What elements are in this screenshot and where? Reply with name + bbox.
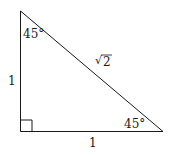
triangle-diagram [0,0,171,155]
left-side-label: 1 [8,75,16,87]
hypotenuse-label: 2 [103,56,111,68]
bottom-right-angle-label: 45° [124,118,145,130]
hypotenuse-radical: √ [95,55,102,67]
top-angle-label: 45° [23,28,44,40]
bottom-side-label: 1 [89,137,97,149]
right-angle-marker [21,120,33,132]
